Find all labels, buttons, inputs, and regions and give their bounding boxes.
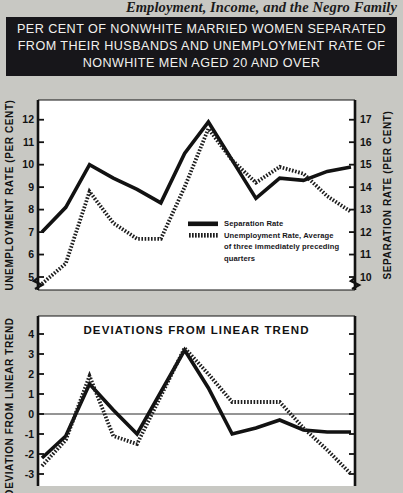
lower-left-axis-tick-label: 1 [28,388,34,400]
legend-item-label: Separation Rate [224,219,283,228]
lower-left-axis-tick-label: 4 [28,328,34,340]
upper-left-axis-tick-label: 9 [28,181,34,193]
figure-svg: 567891011121011121314151617-3-2-101234UN… [0,76,403,493]
upper-right-axis-tick-label: 17 [360,113,372,125]
legend-swatch-separation-rate [188,222,218,227]
upper-right-axis-tick-label: 16 [360,136,372,148]
charts-container: 567891011121011121314151617-3-2-101234UN… [0,76,403,493]
upper-right-axis-tick-label: 11 [360,248,371,260]
upper-left-axis-tick-label: 12 [22,113,34,125]
lower-y-axis-title: DEVIATION FROM LINEAR TREND [4,317,15,493]
legend-item-label: quarters [224,254,255,263]
legend-item-label: of three immediately preceding [224,242,340,251]
lower-left-axis-tick-label: -2 [25,448,34,460]
figure-title: PER CENT OF NONWHITE MARRIED WOMEN SEPAR… [13,21,390,72]
upper-left-axis-tick-label: 7 [28,226,34,238]
lower-left-axis-tick-label: 3 [28,348,34,360]
legend-swatch-unemployment-rate [188,233,218,238]
upper-plot-background [38,100,355,290]
upper-right-axis-tick-label: 14 [360,181,372,193]
upper-right-axis-tick-label: 15 [360,158,372,170]
upper-right-axis-tick-label: 12 [360,226,372,238]
upper-left-axis-tick-label: 5 [28,271,34,283]
upper-y-axis-right-title: SEPARATION RATE (PER CENT) [382,111,393,280]
lower-left-axis-tick-label: 2 [28,368,34,380]
upper-left-axis-tick-label: 11 [23,136,34,148]
upper-left-axis-tick-label: 10 [22,158,34,170]
lower-panel-title: DEVIATIONS FROM LINEAR TREND [83,324,309,336]
upper-left-axis-tick-label: 8 [28,203,34,215]
lower-plot-background [38,316,355,486]
legend-item-label: Unemployment Rate, Average [224,231,334,240]
upper-right-axis-tick-label: 13 [360,203,372,215]
upper-y-axis-left-title: UNEMPLOYMENT RATE (PER CENT) [4,99,15,290]
figure-page: Employment, Income, and the Negro Family… [0,0,403,493]
lower-left-axis-tick-label: -1 [25,428,34,440]
upper-left-axis-tick-label: 6 [28,248,34,260]
figure-title-line-2: FROM THEIR HUSBANDS AND UNEMPLOYMENT RAT… [18,39,386,53]
figure-title-line-3: NONWHITE MEN AGED 20 AND OVER [83,56,321,70]
lower-left-axis-tick-label: -3 [25,468,34,480]
upper-right-axis-tick-label: 10 [360,271,372,283]
figure-title-line-1: PER CENT OF NONWHITE MARRIED WOMEN SEPAR… [17,22,386,36]
lower-left-axis-tick-label: 0 [28,408,34,420]
running-head: Employment, Income, and the Negro Family [0,0,403,17]
figure-title-band: PER CENT OF NONWHITE MARRIED WOMEN SEPAR… [6,17,397,76]
